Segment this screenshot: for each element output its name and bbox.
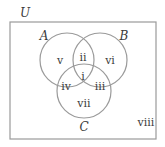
region-viii-label: viii: [137, 116, 155, 129]
set-c-label: C: [79, 120, 88, 134]
region-iii-label: iii: [95, 80, 106, 93]
set-a-label: A: [39, 29, 49, 43]
region-v-label: v: [56, 54, 64, 67]
set-b-label: B: [119, 29, 129, 43]
region-vii-label: vii: [76, 97, 91, 110]
region-iv-label: iv: [61, 80, 72, 93]
region-vi-label: vi: [104, 54, 115, 67]
region-ii-label: ii: [79, 51, 87, 64]
universe-label: U: [20, 6, 31, 20]
region-i-label: i: [81, 70, 85, 83]
venn-diagram: U A B C i ii iii iv v vi vii viii: [0, 0, 165, 147]
